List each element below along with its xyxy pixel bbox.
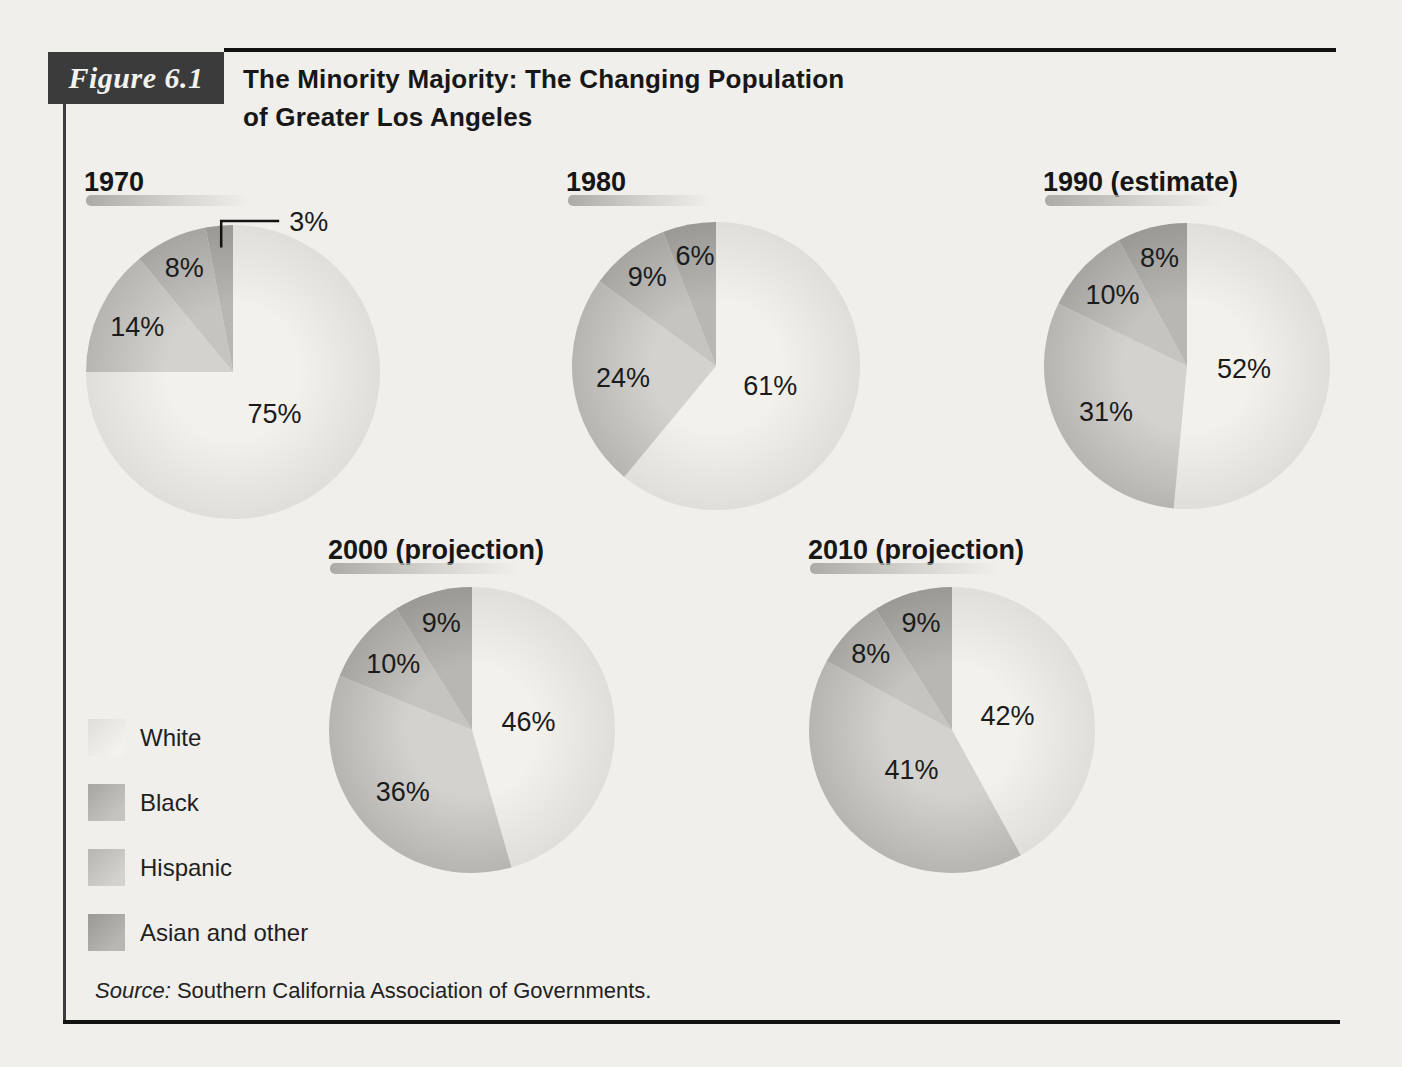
pie-label-asian: 9% (422, 608, 461, 638)
source-line: Source: Southern California Association … (95, 978, 651, 1004)
pie-label-black: 8% (851, 639, 890, 669)
pie-label-hispanic: 41% (885, 755, 939, 785)
pie-label-hispanic: 36% (376, 777, 430, 807)
pie-label-white: 61% (743, 371, 797, 401)
pie-label-hispanic: 14% (110, 312, 164, 342)
pie-label-white: 52% (1217, 354, 1271, 384)
pie-label-black: 10% (1085, 280, 1139, 310)
figure-number-label: Figure 6.1 (68, 61, 203, 95)
pie-label-white: 42% (980, 701, 1034, 731)
figure-title-line2: of Greater Los Angeles (243, 98, 844, 136)
pie-chart-2000: 46%36%10%9% (302, 540, 642, 900)
figure-title: The Minority Majority: The Changing Popu… (243, 60, 844, 136)
pie-label-asian: 3% (289, 207, 328, 237)
legend-label-hispanic: Hispanic (140, 854, 232, 882)
legend: White Black Hispanic Asian and other (88, 719, 308, 979)
pie-label-asian: 8% (1140, 243, 1179, 273)
legend-swatch-hispanic (88, 849, 125, 886)
pie-label-white: 46% (502, 707, 556, 737)
pie-chart-1990: 52%31%10%8% (1017, 176, 1357, 536)
pie-label-black: 10% (366, 649, 420, 679)
legend-item-black: Black (88, 784, 308, 821)
source-text: Southern California Association of Gover… (171, 978, 652, 1003)
pie-label-hispanic: 24% (596, 363, 650, 393)
top-rule (224, 48, 1336, 52)
legend-item-white: White (88, 719, 308, 756)
bottom-rule (63, 1020, 1340, 1024)
pie-label-asian: 9% (901, 608, 940, 638)
pie-label-hispanic: 31% (1079, 397, 1133, 427)
pie-label-black: 9% (628, 262, 667, 292)
pie-chart-2010: 42%41%8%9% (782, 540, 1122, 900)
pie-label-white: 75% (248, 399, 302, 429)
legend-swatch-black (88, 784, 125, 821)
legend-swatch-asian (88, 914, 125, 951)
legend-swatch-white (88, 719, 125, 756)
legend-label-white: White (140, 724, 201, 752)
pie-chart-1980: 61%24%9%6% (546, 176, 886, 536)
figure-title-line1: The Minority Majority: The Changing Popu… (243, 60, 844, 98)
figure-page: Figure 6.1 The Minority Majority: The Ch… (0, 0, 1402, 1067)
legend-item-hispanic: Hispanic (88, 849, 308, 886)
pie-chart-1970: 75%14%8%3% (63, 182, 403, 542)
legend-label-black: Black (140, 789, 199, 817)
pie-label-asian: 6% (675, 241, 714, 271)
legend-item-asian: Asian and other (88, 914, 308, 951)
figure-number-box: Figure 6.1 (48, 52, 224, 104)
pie-label-black: 8% (165, 253, 204, 283)
source-prefix: Source: (95, 978, 171, 1003)
legend-label-asian: Asian and other (140, 919, 308, 947)
